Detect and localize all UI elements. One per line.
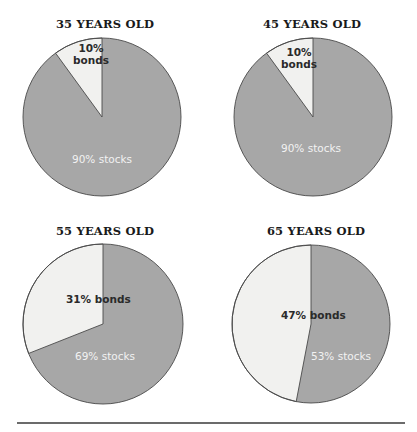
bonds-label: 10% [78,42,104,54]
bonds-label: bonds [73,54,109,66]
chart-title: 65 YEARS OLD [267,224,365,238]
pie: 31% bonds69% stocks [23,244,183,404]
slice-bonds [232,245,311,402]
stocks-label: 69% stocks [75,350,135,362]
bonds-label: bonds [281,58,317,70]
bonds-label: 47% bonds [281,309,346,321]
bonds-label: 31% bonds [66,293,131,305]
pie: 10%bonds90% stocks [234,38,392,196]
pie-chart-65: 65 YEARS OLD 47% bonds53% stocks [232,224,390,403]
chart-title: 35 YEARS OLD [56,17,154,31]
stocks-label: 90% stocks [281,142,341,154]
stocks-label: 90% stocks [72,153,132,165]
pie-chart-55: 55 YEARS OLD 31% bonds69% stocks [23,224,183,404]
pie: 10%bonds90% stocks [23,38,181,196]
bonds-label: 10% [286,46,312,58]
allocation-pie-charts: 35 YEARS OLD 10%bonds90% stocks 45 YEARS… [0,0,417,432]
chart-title: 55 YEARS OLD [56,224,154,238]
chart-title: 45 YEARS OLD [263,17,361,31]
pie-chart-35: 35 YEARS OLD 10%bonds90% stocks [23,17,181,196]
pie-chart-45: 45 YEARS OLD 10%bonds90% stocks [234,17,392,196]
pie: 47% bonds53% stocks [232,245,390,403]
stocks-label: 53% stocks [311,350,371,362]
